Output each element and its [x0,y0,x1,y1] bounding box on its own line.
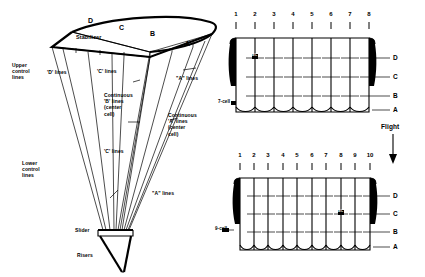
rib-number-b7: 7 [321,152,331,158]
rib-number-b2: 2 [249,152,259,158]
diagram-canvas: D C B A Stabilizer Upper control lines '… [0,0,425,277]
rib-number-b4: 4 [278,152,288,158]
rib-number-b9: 9 [350,152,360,158]
rib-number-b8: 8 [336,152,346,158]
row-label-A-bottom: A [393,243,398,250]
rib-number-b10: 10 [365,152,375,158]
nine-cell-plan-drawing [0,0,425,277]
rib-number-b1: 1 [235,152,245,158]
rib-number-b3: 3 [263,152,273,158]
rib-number-b5: 5 [292,152,302,158]
row-label-C-bottom: C [393,210,398,217]
row-label-B-bottom: B [393,228,398,235]
row-label-D-bottom: D [393,192,398,199]
rib-number-b6: 6 [307,152,317,158]
nine-cell-label: 9-cell [215,226,227,232]
bc-marker-label-bottom: BC [338,208,343,214]
